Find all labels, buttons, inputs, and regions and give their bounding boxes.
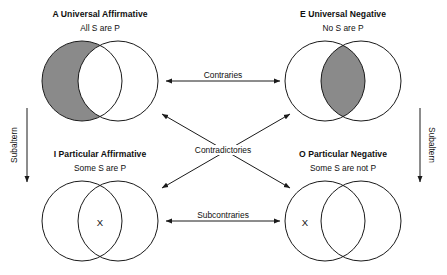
venn-i-circle-s — [42, 181, 122, 261]
quadrant-a-title: A Universal Affirmative — [52, 9, 147, 19]
venn-diagram-a — [42, 41, 158, 121]
venn-i-x-mark: X — [97, 217, 103, 228]
contraries-label: Contraries — [201, 70, 246, 80]
venn-o-circle-p — [321, 181, 401, 261]
subcontraries-label: Subcontraries — [194, 210, 252, 220]
venn-i-circle-p — [78, 181, 158, 261]
quadrant-o-title: O Particular Negative — [299, 149, 387, 159]
quadrant-e-subtitle: No S are P — [323, 23, 364, 33]
subaltern-left-label: Subaltern — [9, 127, 19, 163]
venn-diagram-e — [285, 41, 401, 121]
quadrant-e-title: E Universal Negative — [300, 9, 386, 19]
venn-o-x-mark: X — [302, 217, 308, 228]
diagram-vector-layer — [0, 0, 447, 275]
quadrant-o-subtitle: Some S are not P — [310, 163, 376, 173]
square-of-opposition-diagram: A Universal Affirmative All S are P E Un… — [0, 0, 447, 275]
subaltern-right-label: Subaltern — [427, 127, 437, 163]
venn-o-circle-s — [285, 181, 365, 261]
quadrant-i-title: I Particular Affirmative — [54, 149, 147, 159]
contradictories-label: Contradictories — [192, 145, 254, 155]
quadrant-a-subtitle: All S are P — [80, 23, 120, 33]
quadrant-i-subtitle: Some S are P — [74, 163, 126, 173]
